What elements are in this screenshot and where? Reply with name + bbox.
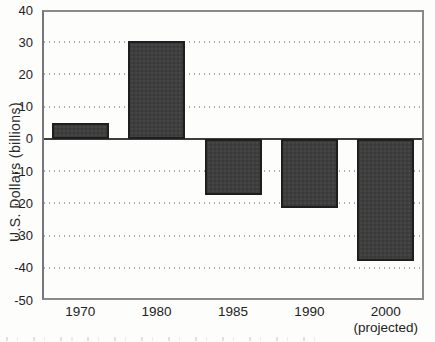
bar-2000 [357,139,414,261]
bar-1980 [128,41,185,139]
x-tick-label-text: 1990 [294,304,324,319]
x-tick-label-2000: 2000(projected) [354,304,419,335]
x-tick-label-text: 2000 [371,304,401,319]
bar-1990 [281,139,338,208]
x-tick-label-1970: 1970 [65,304,95,320]
x-tick-label-1990: 1990 [294,304,324,320]
x-tick-label-text: 1980 [142,304,172,319]
x-tick-sublabel: (projected) [354,320,419,335]
x-tick-label-text: 1985 [218,304,248,319]
figure-root: U.S. Dollars (billions) 403020100-10-20-… [0,0,435,342]
bar-1985 [205,139,262,195]
bar-1970 [52,123,109,139]
x-tick-label-1980: 1980 [142,304,172,320]
x-tick-label-1985: 1985 [218,304,248,320]
x-tick-label-text: 1970 [65,304,95,319]
caption-remnant [6,337,316,341]
